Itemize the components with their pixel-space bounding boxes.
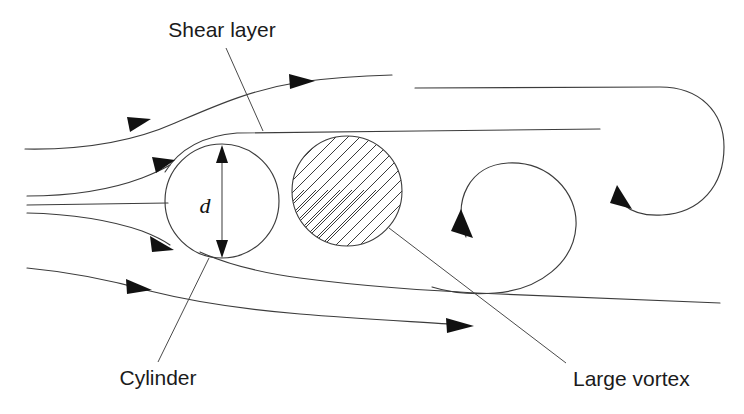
figure-canvas: d — [0, 0, 744, 414]
diameter-arrowhead-bottom — [216, 240, 228, 258]
cylinder-label: Cylinder — [119, 366, 196, 389]
streamline-lower-outer — [27, 268, 462, 325]
arrowhead-lower-outer-2 — [446, 318, 474, 333]
streamline-wake-lower-boundary — [200, 252, 720, 303]
arrowhead-upper-outer-2 — [289, 74, 315, 89]
diameter-label: d — [200, 193, 212, 218]
large-vortex-label: Large vortex — [573, 367, 690, 390]
arrowhead-outer-vortex — [610, 185, 632, 209]
diameter-arrowhead-top — [216, 145, 228, 163]
arrowhead-secondary-vortex — [451, 209, 473, 238]
streamline-lower-inner — [27, 213, 170, 245]
flow-past-cylinder-diagram: d — [0, 0, 744, 414]
arrowhead-upper-outer-1 — [127, 117, 151, 132]
arrowhead-lower-outer-1 — [126, 279, 152, 294]
shear-layer-leader-line — [226, 48, 263, 131]
arrowhead-upper-inner-1 — [152, 157, 175, 173]
streamline-upper-inner — [27, 165, 170, 196]
cylinder-leader-line — [158, 258, 209, 362]
streamline-stagnation — [27, 203, 168, 205]
shear-layer-label: Shear layer — [168, 18, 275, 41]
arrowhead-lower-inner-1 — [150, 236, 174, 252]
large-vortex-hatching — [256, 125, 516, 274]
